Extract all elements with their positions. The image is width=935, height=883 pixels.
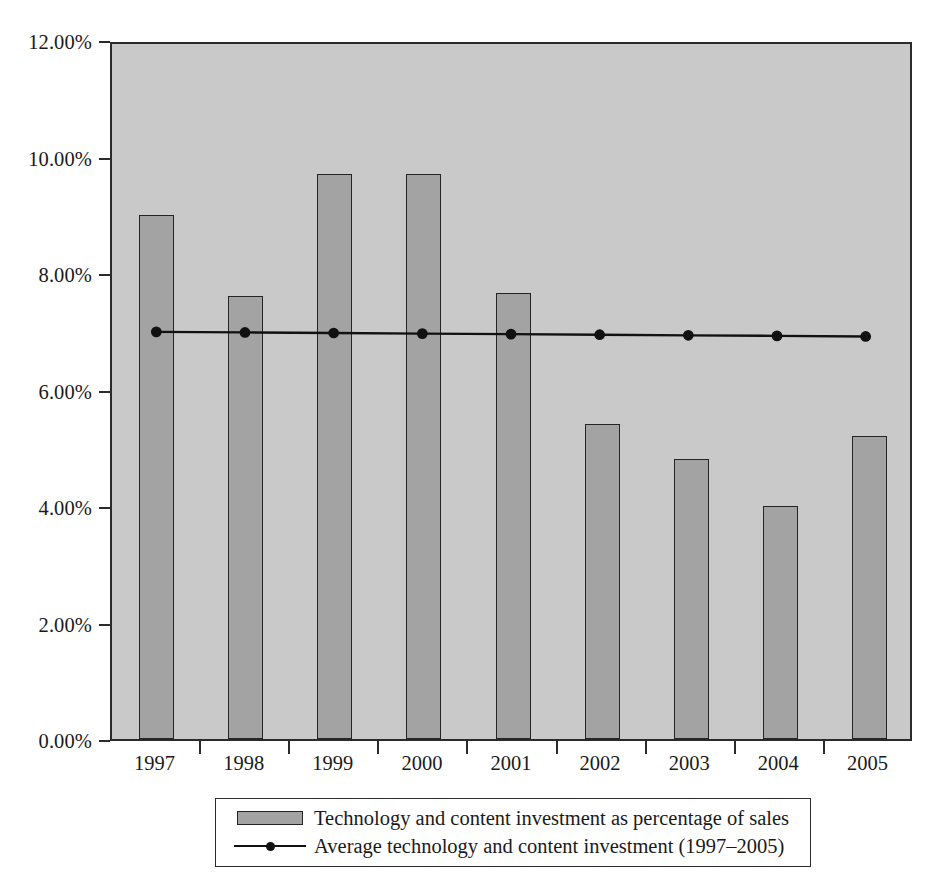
x-tick-label-2004: 2004 — [758, 752, 799, 775]
x-tick-label-2005: 2005 — [847, 752, 888, 775]
average-line-layer — [112, 44, 910, 739]
y-tick-label: 6.00% — [39, 380, 92, 403]
chart-legend: Technology and content investment as per… — [215, 798, 811, 867]
y-tick-mark — [99, 391, 110, 393]
x-tick-label-1998: 1998 — [223, 752, 264, 775]
y-axis: 0.00%2.00%4.00%6.00%8.00%10.00%12.00% — [0, 0, 110, 783]
legend-item-label: Technology and content investment as per… — [314, 808, 789, 829]
y-tick-label: 0.00% — [39, 730, 92, 753]
legend-item-line-series: Average technology and content investmen… — [226, 832, 800, 860]
legend-item-label: Average technology and content investmen… — [314, 836, 784, 857]
average-marker-1998 — [240, 327, 251, 338]
y-tick-mark — [99, 740, 110, 742]
average-marker-2000 — [417, 328, 428, 339]
average-marker-2004 — [772, 331, 783, 342]
average-marker-2001 — [506, 329, 517, 340]
y-tick-mark — [99, 158, 110, 160]
y-tick-label: 12.00% — [28, 31, 92, 54]
x-tick-label-1999: 1999 — [312, 752, 353, 775]
average-marker-1999 — [328, 328, 339, 339]
x-tick-label-2000: 2000 — [401, 752, 442, 775]
x-axis-labels: 199719981999200020012002200320042005 — [110, 752, 912, 788]
average-marker-1997 — [151, 326, 162, 337]
average-marker-2005 — [860, 331, 871, 342]
average-marker-2003 — [683, 330, 694, 341]
y-tick-mark — [99, 274, 110, 276]
y-tick-label: 2.00% — [39, 613, 92, 636]
y-tick-label: 10.00% — [28, 147, 92, 170]
x-tick-label-1997: 1997 — [134, 752, 175, 775]
average-marker-2002 — [594, 329, 605, 340]
plot-area — [110, 42, 912, 741]
y-tick-mark — [99, 624, 110, 626]
legend-line-marker-icon — [226, 832, 314, 860]
y-tick-mark — [99, 41, 110, 43]
x-tick-label-2002: 2002 — [580, 752, 621, 775]
legend-item-bar-series: Technology and content investment as per… — [226, 804, 800, 832]
y-tick-label: 4.00% — [39, 497, 92, 520]
technology-investment-chart: 0.00%2.00%4.00%6.00%8.00%10.00%12.00% 19… — [0, 0, 935, 883]
x-tick-label-2003: 2003 — [669, 752, 710, 775]
legend-bar-swatch-icon — [226, 804, 314, 832]
y-tick-mark — [99, 507, 110, 509]
x-tick-label-2001: 2001 — [491, 752, 532, 775]
y-tick-label: 8.00% — [39, 264, 92, 287]
